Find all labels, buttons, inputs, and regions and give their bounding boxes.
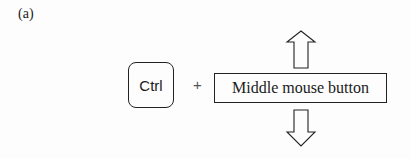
ctrl-key-label: Ctrl bbox=[139, 77, 162, 94]
ctrl-key: Ctrl bbox=[128, 62, 174, 108]
middle-mouse-button-box: Middle mouse button bbox=[214, 73, 387, 103]
plus-operator: + bbox=[193, 76, 202, 93]
panel-label: (a) bbox=[18, 6, 34, 22]
middle-mouse-button-label: Middle mouse button bbox=[232, 79, 369, 97]
arrow-down-outline-icon bbox=[286, 109, 316, 149]
arrow-up-outline-icon bbox=[286, 30, 316, 70]
